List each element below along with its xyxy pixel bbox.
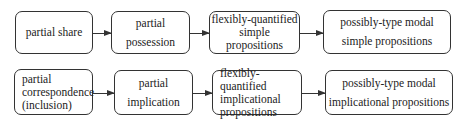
node-possibly-type-modal-simple: possibly-type modal simple propositions xyxy=(323,10,451,54)
node-partial-implication: partial implication xyxy=(114,70,193,115)
node-label: partial possession xyxy=(126,14,175,52)
arrow-edge-2 xyxy=(190,33,209,34)
node-partial-possession: partial possession xyxy=(111,11,190,54)
node-flexibly-quantified-simple: flexibly-quantified simple propositions xyxy=(209,11,300,54)
arrow-edge-5 xyxy=(193,93,212,94)
node-label: partial implication xyxy=(127,74,179,112)
node-label: possibly-type modal simple propositions xyxy=(340,13,434,51)
node-partial-share: partial share xyxy=(15,11,93,54)
arrow-edge-1 xyxy=(93,33,111,34)
arrow-edge-4 xyxy=(93,93,114,94)
arrow-edge-6 xyxy=(302,93,325,94)
node-label: flexibly-quantified implicational propos… xyxy=(220,67,301,119)
node-flexibly-quantified-implicational: flexibly-quantified implicational propos… xyxy=(212,70,302,115)
node-label: partial correspondence (inclusion) xyxy=(22,73,94,112)
node-possibly-type-modal-implicational: possibly-type modal implicational propos… xyxy=(325,70,453,115)
node-label: flexibly-quantified simple propositions xyxy=(211,13,297,52)
node-partial-correspondence: partial correspondence (inclusion) xyxy=(14,69,93,115)
node-label: possibly-type modal implicational propos… xyxy=(329,74,449,112)
arrow-edge-3 xyxy=(300,33,323,34)
node-label: partial share xyxy=(26,26,83,39)
